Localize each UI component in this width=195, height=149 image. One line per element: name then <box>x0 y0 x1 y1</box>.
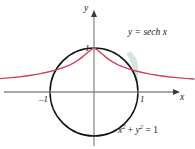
sech-curve-path <box>0 48 194 79</box>
figure-canvas <box>0 0 195 149</box>
x-axis-label: x <box>180 93 184 103</box>
eq-plus: + <box>125 125 135 135</box>
eq-equals-one: = 1 <box>143 125 158 135</box>
sech-curve-label: y = sech x <box>128 28 167 38</box>
x-tick-label-1: 1 <box>140 95 145 104</box>
unit-circle-equation-label: x2 + y2 = 1 <box>118 124 158 136</box>
y-tick-label-1: 1 <box>85 44 90 53</box>
x-tick-label-neg1: –1 <box>39 95 48 104</box>
math-figure: y x 1 –1 1 y = sech x x2 + y2 = 1 <box>0 0 195 149</box>
y-axis-label: y <box>84 4 88 14</box>
